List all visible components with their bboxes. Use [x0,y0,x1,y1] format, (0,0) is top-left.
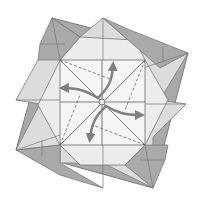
center-point [99,99,105,105]
origami-diagram [0,0,205,203]
